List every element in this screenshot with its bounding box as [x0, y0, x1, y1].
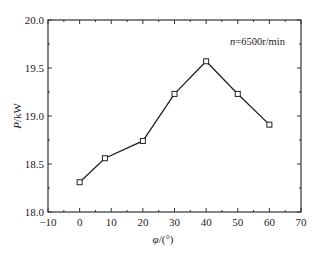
data-point-marker — [172, 91, 177, 96]
y-tick-label: 20.0 — [25, 14, 45, 26]
y-tick-label: 19.5 — [25, 62, 45, 74]
data-series — [77, 59, 272, 185]
data-point-marker — [267, 122, 272, 127]
data-point-marker — [235, 91, 240, 96]
annotation-speed: n=6500r/min — [230, 36, 286, 47]
x-tick-label: 10 — [106, 216, 118, 228]
plot-border — [48, 20, 301, 212]
x-axis-title: φ/(°) — [153, 233, 174, 246]
y-tick-label: 18.0 — [25, 206, 45, 218]
data-point-marker — [77, 180, 82, 185]
data-point-marker — [140, 138, 145, 143]
series-line — [80, 61, 270, 182]
x-tick-label: 60 — [264, 216, 276, 228]
line-chart: −1001020304050607018.018.519.019.520.0 n… — [0, 0, 318, 258]
x-tick-label: 70 — [296, 216, 308, 228]
plot-frame — [48, 20, 301, 212]
x-tick-label: 20 — [137, 216, 149, 228]
x-tick-label: 40 — [201, 216, 213, 228]
y-axis-title: P/kW — [11, 103, 23, 130]
data-point-marker — [204, 59, 209, 64]
data-point-marker — [102, 156, 107, 161]
x-tick-label: 50 — [232, 216, 244, 228]
x-tick-label: 30 — [169, 216, 181, 228]
x-tick-label: 0 — [77, 216, 83, 228]
y-tick-label: 18.5 — [25, 158, 45, 170]
y-tick-label: 19.0 — [25, 110, 45, 122]
